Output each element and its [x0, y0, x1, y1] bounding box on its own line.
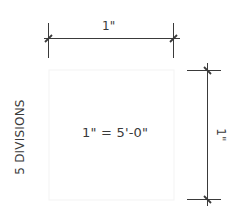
scale-label: 1" = 5'-0" — [82, 125, 148, 140]
dimension-drawing — [0, 0, 234, 224]
divisions-label: 5 DIVISIONS — [13, 99, 27, 174]
top-dimension-label: 1" — [102, 19, 116, 33]
right-dimension-label: 1" — [214, 128, 228, 142]
